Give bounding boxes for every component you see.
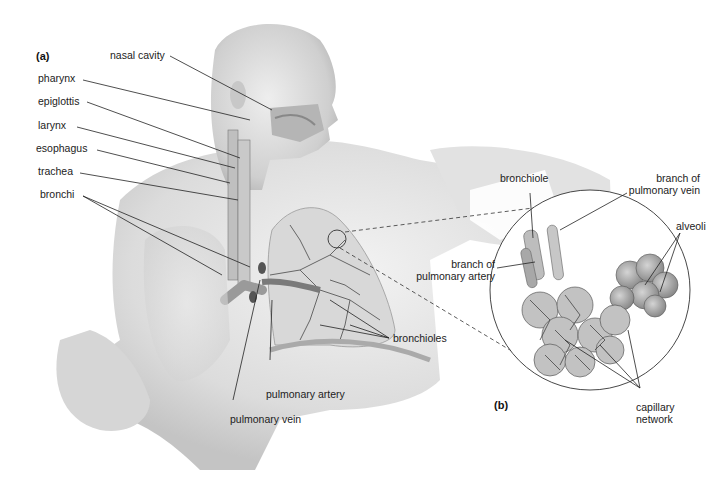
label-bronchioles: bronchioles — [393, 332, 447, 344]
label-bronchi: bronchi — [40, 188, 74, 200]
label-capillary-network: capillary network — [636, 401, 675, 425]
label-larynx: larynx — [38, 119, 66, 131]
label-trachea: trachea — [38, 165, 73, 177]
respiratory-diagram: (a) nasal cavity pharynx epiglottis lary… — [0, 0, 728, 481]
panel-a-label: (a) — [36, 50, 49, 62]
inset-alveoli — [490, 190, 690, 390]
label-epiglottis: epiglottis — [38, 95, 79, 107]
label-nasal-cavity: nasal cavity — [110, 49, 165, 61]
label-branch-pulmonary-artery: branch of pulmonary artery — [405, 258, 495, 282]
label-pharynx: pharynx — [38, 72, 75, 84]
label-branch-pulmonary-vein: branch of pulmonary vein — [610, 172, 700, 196]
anatomy-illustration — [0, 0, 728, 481]
label-bronchiole: bronchiole — [500, 172, 548, 184]
label-alveoli: alveoli — [676, 220, 706, 232]
label-pulmonary-vein: pulmonary vein — [230, 413, 301, 425]
panel-b-label: (b) — [494, 399, 508, 411]
label-pulmonary-artery: pulmonary artery — [266, 388, 345, 400]
label-esophagus: esophagus — [36, 142, 87, 154]
